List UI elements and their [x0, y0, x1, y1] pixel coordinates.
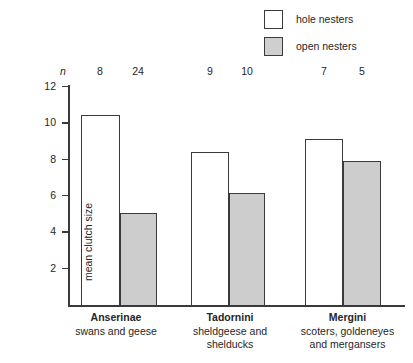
group-label-tadornini: Tadornini sheldgeese and shelducks — [165, 311, 295, 352]
y-tick-label-12: 12 — [28, 81, 56, 91]
bar-mergini-hole-nesters — [305, 139, 343, 306]
sample-size-mergini-hole: 7 — [309, 64, 339, 78]
bar-mergini-open-nesters — [343, 161, 381, 306]
group-sub-mergini-line2: and mergansers — [282, 338, 413, 352]
group-sub-tadornini-line2: shelducks — [165, 338, 295, 352]
legend-label-open-nesters: open nesters — [296, 41, 357, 52]
y-tick-label-2: 2 — [28, 263, 56, 273]
y-tick-label-6: 6 — [28, 190, 56, 200]
sample-size-symbol: n — [55, 64, 71, 78]
group-name-mergini: Mergini — [282, 311, 413, 325]
legend-swatch-open-nesters — [264, 37, 283, 56]
group-sub-tadornini-line1: sheldgeese and — [165, 325, 295, 339]
y-tick-label-10: 10 — [28, 117, 56, 127]
group-sub-mergini-line1: scoters, goldeneyes — [282, 325, 413, 339]
group-label-anserinae: Anserinae swans and geese — [51, 311, 181, 338]
x-axis-group-labels: Anserinae swans and geese Tadornini shel… — [0, 311, 413, 363]
bar-anserinae-open-nesters — [120, 213, 157, 306]
clutch-size-bar-chart: hole nesters open nesters n 8 24 9 10 7 … — [0, 0, 413, 363]
bar-tadornini-open-nesters — [229, 193, 265, 306]
legend-label-hole-nesters: hole nesters — [296, 14, 353, 25]
plot-area: mean clutch size — [68, 86, 398, 306]
y-axis-title: mean clutch size — [82, 152, 94, 332]
sample-size-tadornini-open: 10 — [232, 64, 262, 78]
group-name-tadornini: Tadornini — [165, 311, 295, 325]
bar-tadornini-hole-nesters — [191, 152, 229, 306]
sample-size-anserinae-hole: 8 — [85, 64, 115, 78]
y-tick-label-8: 8 — [28, 154, 56, 164]
sample-size-row: n 8 24 9 10 7 5 — [0, 64, 413, 78]
legend-swatch-hole-nesters — [264, 10, 283, 29]
group-label-mergini: Mergini scoters, goldeneyes and merganse… — [282, 311, 413, 352]
sample-size-tadornini-hole: 9 — [195, 64, 225, 78]
legend-item-open-nesters: open nesters — [264, 35, 409, 57]
sample-size-mergini-open: 5 — [347, 64, 377, 78]
y-tick-label-4: 4 — [28, 226, 56, 236]
legend-item-hole-nesters: hole nesters — [264, 8, 409, 30]
chart-legend: hole nesters open nesters — [264, 8, 409, 62]
group-name-anserinae: Anserinae — [51, 311, 181, 325]
group-sub-anserinae-line1: swans and geese — [51, 325, 181, 339]
sample-size-anserinae-open: 24 — [123, 64, 153, 78]
